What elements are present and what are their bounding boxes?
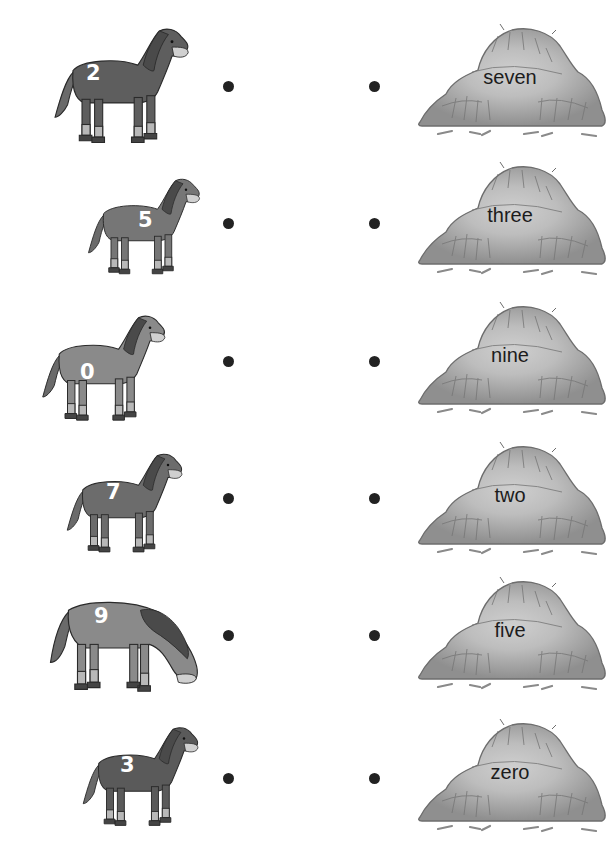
hay-word: seven [412, 66, 608, 89]
match-row-2: 5 three [0, 150, 612, 285]
horse-7: 7 [44, 434, 199, 569]
hay-pile-two: two [412, 440, 608, 558]
hay-pile-seven: seven [412, 22, 608, 140]
left-dot-2[interactable] [223, 218, 234, 229]
horse-number: 5 [138, 208, 153, 232]
hay-pile-five: five [412, 575, 608, 693]
hay-word: nine [412, 344, 608, 367]
left-dot-6[interactable] [223, 773, 234, 784]
match-row-3: 0 nine [0, 290, 612, 425]
horse-number: 0 [80, 360, 95, 384]
left-dot-3[interactable] [223, 356, 234, 367]
left-dot-4[interactable] [223, 493, 234, 504]
right-dot-5[interactable] [369, 630, 380, 641]
horse-0: 0 [18, 294, 183, 439]
match-row-6: 3 zero [0, 705, 612, 840]
hay-word: five [412, 619, 608, 642]
left-dot-5[interactable] [223, 630, 234, 641]
horse-icon [60, 705, 215, 845]
right-dot-1[interactable] [369, 81, 380, 92]
left-dot-1[interactable] [223, 81, 234, 92]
horse-number: 2 [86, 61, 101, 85]
match-row-1: 2 seven [0, 12, 612, 147]
right-dot-4[interactable] [369, 493, 380, 504]
horse-number: 9 [94, 604, 109, 628]
hay-pile-zero: zero [412, 717, 608, 835]
horse-2: 2 [28, 14, 208, 154]
horse-icon [30, 576, 215, 711]
hay-pile-nine: nine [412, 300, 608, 418]
hay-word: three [412, 204, 608, 227]
horse-icon [18, 294, 183, 439]
horse-icon [28, 14, 208, 154]
hay-word: two [412, 484, 608, 507]
match-row-4: 7 two [0, 430, 612, 565]
horse-number: 7 [106, 480, 121, 504]
hay-pile-three: three [412, 160, 608, 278]
match-row-5: 9 five [0, 570, 612, 705]
right-dot-6[interactable] [369, 773, 380, 784]
horse-icon [44, 434, 199, 569]
horse-9: 9 [30, 576, 215, 711]
horse-number: 3 [120, 753, 135, 777]
right-dot-2[interactable] [369, 218, 380, 229]
hay-word: zero [412, 761, 608, 784]
horse-5: 5 [66, 150, 216, 300]
horse-3: 3 [60, 705, 215, 845]
right-dot-3[interactable] [369, 356, 380, 367]
